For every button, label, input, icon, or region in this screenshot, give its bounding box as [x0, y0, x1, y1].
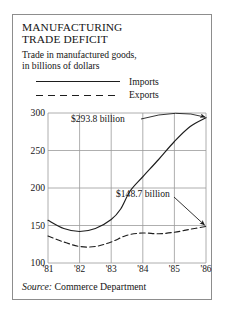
source-line: Source: Commerce Department — [22, 281, 146, 292]
annotation-imports-value: $293.8 billion — [71, 114, 125, 124]
legend-key-exports-icon — [36, 95, 120, 96]
x-tick-81: '81 — [42, 265, 53, 274]
series-lines — [48, 118, 206, 247]
legend-label-exports: Exports — [129, 90, 159, 100]
chart-subtitle: Trade in manufactured goods, in billions… — [22, 49, 204, 71]
x-tick-86: '86 — [200, 265, 211, 274]
plot-area: 100150200250300 '81'82'83'84'85'86 $293.… — [48, 113, 206, 263]
source-value: Commerce Department — [55, 281, 147, 292]
annotation-exports-value: $148.7 billion — [116, 189, 170, 199]
y-tick-250: 250 — [31, 146, 45, 156]
y-tick-300: 300 — [31, 108, 45, 118]
y-tick-200: 200 — [31, 183, 45, 193]
chart-title: MANUFACTURING TRADE DEFICIT — [22, 21, 204, 46]
chart-figure: MANUFACTURING TRADE DEFICIT Trade in man… — [12, 14, 212, 300]
chart-legend: Imports Exports — [22, 76, 204, 102]
legend-label-imports: Imports — [129, 77, 159, 87]
x-tick-85: '85 — [169, 265, 180, 274]
figure-header: MANUFACTURING TRADE DEFICIT Trade in man… — [22, 21, 204, 102]
legend-item-exports: Exports — [22, 89, 204, 102]
y-tick-150: 150 — [31, 221, 45, 231]
annotation-leaders — [141, 113, 205, 225]
x-tick-84: '84 — [137, 265, 148, 274]
legend-item-imports: Imports — [22, 76, 204, 89]
legend-key-imports-icon — [36, 81, 120, 83]
x-tick-83: '83 — [106, 265, 117, 274]
source-label: Source: — [22, 281, 52, 292]
x-tick-82: '82 — [74, 265, 85, 274]
